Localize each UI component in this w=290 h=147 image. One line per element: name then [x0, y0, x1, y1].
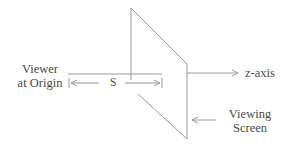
viewer-at-origin-label: Viewer at Origin — [10, 62, 70, 90]
distance-s-label: S — [110, 77, 116, 89]
screen-bottom-edge — [138, 94, 187, 139]
screen-label-line-2: Screen — [222, 121, 278, 135]
screen-top-edge — [131, 8, 187, 64]
viewing-screen-label: Viewing Screen — [222, 107, 278, 135]
viewer-label-line-1: Viewer — [10, 62, 70, 76]
screen-label-line-1: Viewing — [222, 107, 278, 121]
screen-pointer-arrow — [192, 117, 216, 123]
viewer-label-line-2: at Origin — [10, 76, 70, 90]
z-axis — [68, 70, 238, 76]
z-axis-label: z-axis — [245, 67, 275, 80]
perspective-projection-diagram: Viewer at Origin S z-axis Viewing Screen — [0, 0, 290, 147]
